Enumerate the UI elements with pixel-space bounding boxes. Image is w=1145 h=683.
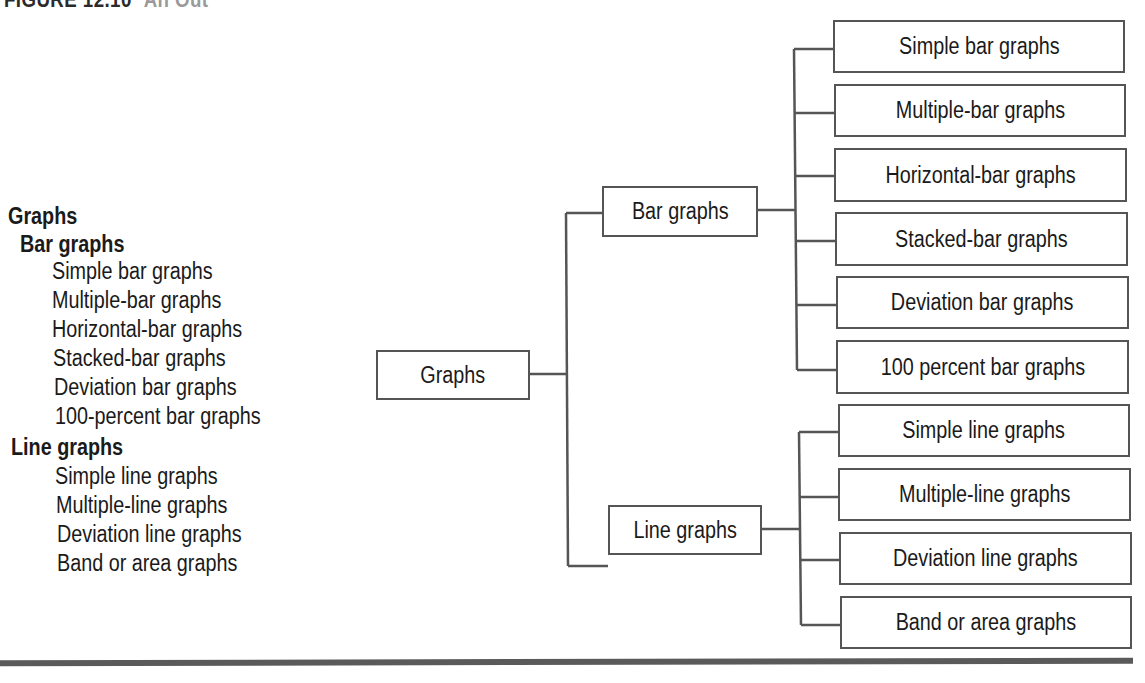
node-stacked-bar-graphs: Stacked-bar graphs [835, 212, 1128, 266]
node-label: Multiple-bar graphs [895, 97, 1064, 124]
node-line-graphs: Line graphs [608, 505, 762, 555]
node-label: 100 percent bar graphs [880, 354, 1085, 381]
node-label: Horizontal-bar graphs [885, 162, 1075, 189]
node-simple-bar-graphs: Simple bar graphs [833, 20, 1125, 73]
node-graphs-label: Graphs [421, 362, 486, 389]
node-deviation-line-graphs: Deviation line graphs [839, 532, 1132, 585]
node-deviation-bar-graphs: Deviation bar graphs [836, 276, 1129, 329]
node-label: Deviation line graphs [893, 545, 1078, 572]
node-horizontal-bar-graphs: Horizontal-bar graphs [834, 148, 1127, 202]
node-multiple-bar-graphs: Multiple-bar graphs [834, 84, 1126, 137]
node-label: Band or area graphs [896, 609, 1076, 636]
node-multiple-line-graphs: Multiple-line graphs [838, 468, 1131, 521]
node-graphs: Graphs [376, 350, 530, 400]
node-label: Stacked-bar graphs [895, 226, 1068, 253]
tree-diagram: Graphs Bar graphs Line graphs Simple bar… [0, 0, 1145, 683]
node-bar-graphs-label: Bar graphs [632, 198, 729, 225]
node-simple-line-graphs: Simple line graphs [838, 404, 1130, 457]
node-band-or-area-graphs: Band or area graphs [840, 596, 1132, 649]
node-label: Deviation bar graphs [891, 289, 1074, 316]
node-line-graphs-label: Line graphs [633, 517, 736, 544]
node-label: Simple line graphs [903, 417, 1066, 444]
node-label: Simple bar graphs [899, 33, 1060, 60]
node-bar-graphs: Bar graphs [602, 186, 758, 237]
node-100-percent-bar-graphs: 100 percent bar graphs [836, 340, 1129, 394]
node-label: Multiple-line graphs [899, 481, 1071, 508]
